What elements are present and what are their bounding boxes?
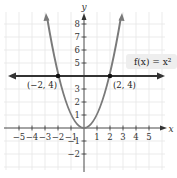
parabola-left-arrow-icon: [44, 13, 50, 21]
y-tick-label: 8: [75, 19, 80, 29]
y-axis-arrow-icon: [82, 13, 87, 20]
function-label: f(x) = x²: [134, 57, 172, 67]
y-tick-label: 3: [75, 84, 80, 94]
y-axis-label: y: [80, 2, 87, 12]
intersection-point-right: [108, 74, 113, 79]
x-tick-label: −2: [52, 132, 65, 142]
x-tick-label: 3: [120, 132, 125, 142]
x-tick-label: 1: [94, 132, 99, 142]
line-right-arrow-icon: [157, 73, 165, 80]
x-tick-label: −4: [26, 132, 39, 142]
line-left-arrow-icon: [8, 73, 16, 80]
y-tick-label: 2: [75, 97, 80, 107]
y-axis: 8 7 6 5 3 2 1 −1 −2 y: [67, 2, 87, 172]
y-tick-label: 7: [75, 32, 80, 42]
x-tick-label: −5: [13, 132, 26, 142]
x-axis-arrow-icon: [160, 126, 167, 131]
parabola-right-arrow-icon: [119, 13, 125, 21]
intersection-point-left: [56, 74, 61, 79]
y-tick-label: −1: [67, 136, 80, 146]
y-tick-label: 1: [75, 110, 80, 120]
graph-figure: −5 −4 −3 −2 −1 1 2 3 4 5 x 8 7 6 5 3 2: [0, 0, 177, 178]
y-tick-label: 6: [75, 45, 80, 55]
y-tick-label: −2: [67, 149, 80, 159]
point-label-right: (2, 4): [113, 80, 136, 90]
y-tick-label: 5: [75, 58, 80, 68]
x-axis-label: x: [168, 124, 173, 134]
point-label-left: (−2, 4): [27, 80, 57, 90]
x-tick-label: 5: [146, 132, 151, 142]
x-tick-label: −3: [39, 132, 52, 142]
x-tick-label: 2: [107, 132, 112, 142]
x-tick-label: 4: [133, 132, 138, 142]
grid: [4, 12, 165, 170]
